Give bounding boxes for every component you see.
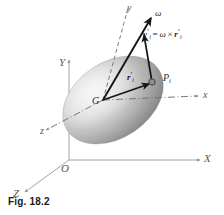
equation-r-subscript: i xyxy=(180,34,182,40)
position-vector-label: r′i xyxy=(127,72,134,83)
mass-center-label-G: G xyxy=(92,96,99,106)
particle-label: Pi xyxy=(163,73,171,85)
figure-caption: Fig. 18.2 xyxy=(8,196,50,207)
axis-label-Y: Y xyxy=(59,57,65,68)
mass-center-marker xyxy=(102,99,104,101)
origin-label-O: O xyxy=(61,163,69,174)
position-vector-subscript: i xyxy=(132,77,134,83)
velocity-equation: v′i=ω×r′i xyxy=(143,29,182,40)
figure-graphic xyxy=(0,0,224,215)
axis-label-y-local: y xyxy=(127,3,131,13)
axis-label-z-local: z xyxy=(40,126,44,136)
particle-point-marker xyxy=(149,79,155,85)
omega-label: ω xyxy=(155,9,161,18)
figure-container: X Y Z O x y z G ω r′i Pi v′i=ω×r′i Fig. … xyxy=(0,0,224,215)
equation-omega: ω xyxy=(159,29,166,39)
axis-label-x-local: x xyxy=(203,90,207,100)
cross-product-sign: × xyxy=(166,29,174,39)
axis-label-X: X xyxy=(204,153,211,164)
particle-subscript: i xyxy=(169,77,171,84)
